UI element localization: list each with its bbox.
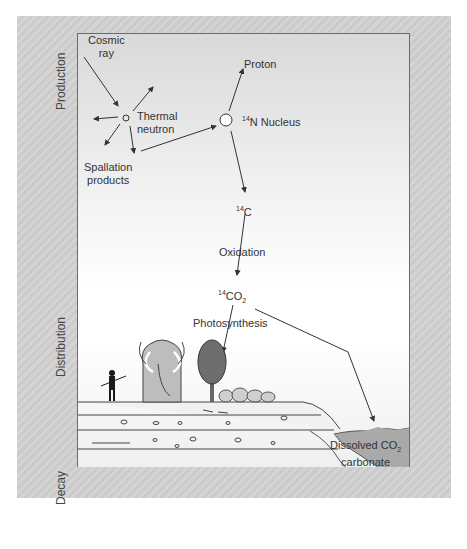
dissolved-co2-label: Dissolved CO2 carbonate bicarbonate	[330, 439, 401, 467]
human-hunter-figure	[101, 370, 126, 401]
n14-nucleus-icon	[220, 114, 232, 126]
spallation-products-label: Spallationproducts	[84, 161, 132, 187]
proton-label: Proton	[244, 58, 276, 71]
co2-label: 14CO2	[218, 286, 246, 307]
c14-arrow	[231, 131, 245, 192]
shrubs	[219, 388, 275, 402]
n14-nucleus-label: 14N Nucleus	[242, 112, 301, 129]
production-arrows	[84, 57, 374, 421]
thermal-neutron-label: Thermalneutron	[137, 110, 177, 136]
proton-arrow	[229, 69, 243, 111]
cosmic-ray-label: Cosmicray	[88, 34, 125, 60]
c14-label: 14C	[236, 202, 252, 219]
diagram-panel: Cosmicray Thermalneutron Spallationprodu…	[77, 33, 410, 467]
section-label-production: Production	[54, 53, 68, 110]
mammoth-figure	[139, 340, 184, 402]
oxidation-label: Oxidation	[219, 246, 265, 259]
photosynthesis-label: Photosynthesis	[193, 317, 268, 330]
cosmic-ray-arrow	[84, 57, 118, 106]
ground-strata	[78, 402, 340, 449]
section-label-decay: Decay	[54, 471, 68, 505]
oxidation-arrow	[237, 214, 245, 275]
section-label-distribution: Distribution	[54, 317, 68, 377]
thermal-neutron-icon	[123, 115, 129, 121]
